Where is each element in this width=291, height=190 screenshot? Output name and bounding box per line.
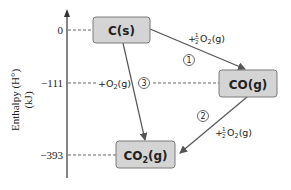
svg-text:2: 2 bbox=[200, 112, 205, 121]
step-2-reagent: + 1 2 O2(g) bbox=[215, 126, 252, 140]
tick-label-111: −111 bbox=[41, 77, 63, 89]
tick-label-393: −393 bbox=[40, 149, 63, 161]
box-carbon-monoxide: CO(g) bbox=[219, 70, 277, 97]
svg-text:2: 2 bbox=[222, 133, 226, 139]
arrow-step-3 bbox=[123, 43, 145, 140]
svg-text:1: 1 bbox=[186, 56, 191, 65]
svg-text:+O2(g): +O2(g) bbox=[98, 78, 131, 91]
step-3-reagent: +O2(g) bbox=[98, 78, 131, 91]
svg-text:O2(g): O2(g) bbox=[200, 33, 225, 46]
y-axis-label-line2: (kJ) bbox=[22, 91, 35, 108]
box-carbon: C(s) bbox=[93, 17, 150, 43]
enthalpy-diagram: Enthalpy (H°) (kJ) 0 −111 −393 C(s) CO(g… bbox=[0, 0, 291, 190]
box-carbon-dioxide: CO2(g) bbox=[116, 141, 175, 168]
y-axis-arrow-icon bbox=[64, 9, 70, 17]
step-3-badge: 3 bbox=[139, 78, 150, 89]
step-1-reagent: + 1 2 O2(g) bbox=[188, 32, 225, 46]
step-2-badge: 2 bbox=[198, 111, 209, 122]
box-carbon-label: C(s) bbox=[108, 24, 135, 38]
y-axis-label: Enthalpy (H°) (kJ) bbox=[9, 69, 35, 131]
svg-text:3: 3 bbox=[141, 79, 146, 88]
step-1-badge: 1 bbox=[184, 55, 195, 66]
tick-label-0: 0 bbox=[58, 24, 64, 36]
svg-text:1: 1 bbox=[222, 126, 226, 132]
svg-text:2: 2 bbox=[195, 39, 199, 45]
y-axis-label-line1: Enthalpy (H°) bbox=[9, 69, 22, 131]
arrow-step-2 bbox=[180, 97, 247, 153]
box-co-label: CO(g) bbox=[229, 78, 268, 92]
svg-text:O2(g): O2(g) bbox=[227, 127, 252, 140]
svg-text:1: 1 bbox=[195, 32, 199, 38]
